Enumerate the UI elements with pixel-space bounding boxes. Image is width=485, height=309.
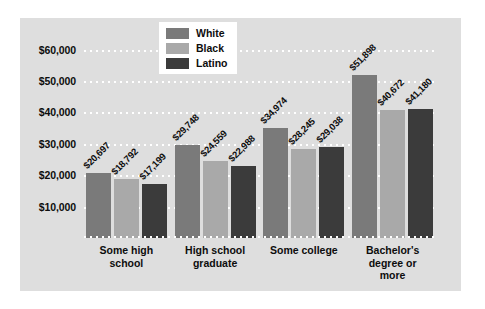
legend-label: Black: [196, 42, 224, 54]
bar-value-label: $28,245: [286, 116, 317, 147]
legend-swatch-white: [166, 28, 189, 39]
bar-white: $29,748: [175, 145, 200, 238]
legend-swatch-latino: [166, 58, 189, 69]
bar-value-label: $22,988: [226, 133, 257, 164]
bar-value-label: $29,748: [170, 111, 201, 142]
bar-black: $24,559: [203, 161, 228, 238]
bar-group: $34,974$28,245$29,038: [260, 34, 349, 238]
bar-value-label: $29,038: [314, 114, 345, 145]
bar-latino: $17,199: [142, 184, 167, 238]
bar-white: $20,697: [86, 173, 111, 238]
bar-value-label: $24,559: [198, 128, 229, 159]
y-axis-tick-label: $30,000: [39, 138, 76, 150]
bar-value-label: $34,974: [258, 95, 289, 126]
y-axis-tick-label: $10,000: [39, 201, 76, 213]
bar-black: $18,792: [114, 179, 139, 238]
x-axis-category-labels: Some highschoolHigh schoolgraduateSome c…: [82, 244, 437, 290]
bar-value-label: $20,697: [81, 140, 112, 171]
category-label: Some highschool: [82, 244, 171, 269]
bar-value-label: $51,898: [347, 42, 378, 73]
category-label: Bachelor'sdegree ormore: [348, 244, 437, 282]
y-axis-tick-label: $60,000: [39, 44, 76, 56]
bar-latino: $22,988: [231, 166, 256, 238]
legend-label: Latino: [196, 57, 228, 69]
bar-value-label: $41,180: [403, 76, 434, 107]
y-axis-tick-label: $20,000: [39, 169, 76, 181]
x-axis-baseline: [82, 236, 437, 238]
bar-group: $51,898$40,672$41,180: [348, 34, 437, 238]
bar-group: $20,697$18,792$17,199: [82, 34, 171, 238]
legend-swatch-black: [166, 43, 189, 54]
legend-label: White: [196, 27, 225, 39]
chart-legend: WhiteBlackLatino: [159, 22, 237, 74]
bar-white: $51,898: [352, 75, 377, 238]
category-label: High schoolgraduate: [171, 244, 260, 269]
plot-area: $20,697$18,792$17,199$29,748$24,559$22,9…: [82, 34, 437, 238]
y-axis-tick-label: $40,000: [39, 106, 76, 118]
bar-value-label: $40,672: [375, 77, 406, 108]
bar-white: $34,974: [263, 128, 288, 238]
legend-item-latino: Latino: [166, 57, 228, 69]
bar-black: $28,245: [291, 149, 316, 238]
legend-item-white: White: [166, 27, 228, 39]
bar-latino: $29,038: [319, 147, 344, 238]
bar-latino: $41,180: [408, 109, 433, 238]
bar-value-label: $17,199: [137, 151, 168, 182]
y-axis: $60,000$50,000$40,000$30,000$20,000$10,0…: [20, 34, 76, 238]
bar-black: $40,672: [380, 110, 405, 238]
legend-item-black: Black: [166, 42, 228, 54]
category-label: Some college: [260, 244, 349, 257]
y-axis-tick-label: $50,000: [39, 75, 76, 87]
bar-chart-figure: $60,000$50,000$40,000$30,000$20,000$10,0…: [20, 18, 461, 291]
bar-value-label: $18,792: [109, 146, 140, 177]
